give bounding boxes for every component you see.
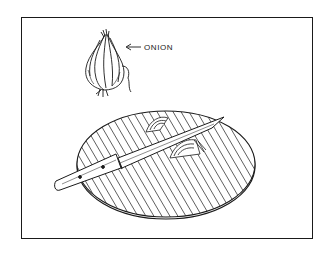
- onion-icon: [86, 29, 131, 97]
- label-arrow-icon: [126, 44, 141, 50]
- illustration-canvas: [0, 0, 335, 257]
- onion-label: ONION: [144, 43, 173, 52]
